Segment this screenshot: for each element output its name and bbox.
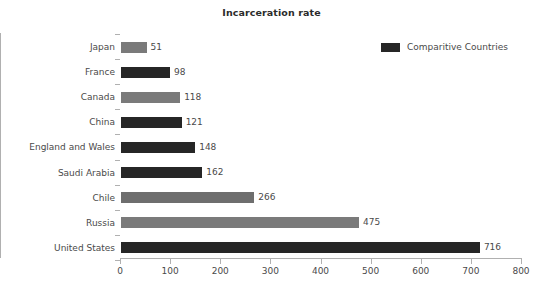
category-label: England and Wales bbox=[29, 142, 115, 152]
x-axis-tick bbox=[220, 259, 221, 264]
bar bbox=[121, 117, 182, 128]
bar bbox=[121, 217, 359, 228]
incarceration-rate-chart: Incarceration rate 519811812114816226647… bbox=[0, 0, 543, 292]
legend-swatch-comparitive-countries bbox=[381, 43, 400, 52]
legend-label: Comparitive Countries bbox=[407, 42, 508, 52]
x-axis-tick bbox=[170, 259, 171, 264]
y-axis-line bbox=[0, 33, 1, 258]
x-axis-tick bbox=[120, 259, 121, 264]
y-axis-tick bbox=[115, 84, 120, 85]
bar bbox=[121, 142, 195, 153]
x-axis-tick bbox=[521, 259, 522, 264]
bar-value-label: 121 bbox=[186, 117, 203, 128]
x-axis-tick bbox=[421, 259, 422, 264]
category-label: Canada bbox=[81, 92, 115, 102]
bar bbox=[121, 42, 147, 53]
category-label: Chile bbox=[92, 193, 115, 203]
category-label: France bbox=[85, 67, 115, 77]
x-axis-tick-label: 300 bbox=[250, 266, 290, 276]
bar bbox=[121, 167, 202, 178]
bar bbox=[121, 242, 480, 253]
category-label: China bbox=[89, 117, 115, 127]
bar bbox=[121, 67, 170, 78]
x-axis-tick bbox=[371, 259, 372, 264]
bar-value-label: 51 bbox=[151, 42, 162, 53]
x-axis-tick-label: 500 bbox=[351, 266, 391, 276]
y-axis-tick bbox=[115, 235, 120, 236]
bar-value-label: 162 bbox=[206, 167, 223, 178]
bar bbox=[121, 92, 180, 103]
x-axis-tick-label: 600 bbox=[401, 266, 441, 276]
category-label: United States bbox=[54, 243, 115, 253]
bar-value-label: 118 bbox=[184, 92, 201, 103]
x-axis-tick bbox=[270, 259, 271, 264]
bar-value-label: 716 bbox=[484, 242, 501, 253]
y-axis-tick bbox=[115, 185, 120, 186]
x-axis-tick-label: 800 bbox=[501, 266, 541, 276]
y-axis-tick bbox=[115, 160, 120, 161]
bar-value-label: 475 bbox=[363, 217, 380, 228]
y-axis-tick bbox=[115, 59, 120, 60]
x-axis-tick-label: 200 bbox=[200, 266, 240, 276]
x-axis-tick bbox=[321, 259, 322, 264]
bar-value-label: 266 bbox=[258, 192, 275, 203]
y-axis-tick bbox=[115, 210, 120, 211]
category-label: Japan bbox=[90, 42, 115, 52]
bar bbox=[121, 192, 254, 203]
category-label: Russia bbox=[86, 218, 115, 228]
category-label: Saudi Arabia bbox=[58, 168, 115, 178]
x-axis-tick-label: 400 bbox=[301, 266, 341, 276]
y-axis-tick bbox=[115, 109, 120, 110]
x-axis-tick bbox=[471, 259, 472, 264]
bar-value-label: 148 bbox=[199, 142, 216, 153]
x-axis-tick-label: 700 bbox=[451, 266, 491, 276]
y-axis-tick bbox=[115, 34, 120, 35]
chart-title: Incarceration rate bbox=[0, 7, 543, 18]
bar-value-label: 98 bbox=[174, 67, 185, 78]
x-axis-tick-label: 0 bbox=[100, 266, 140, 276]
chart-legend: Comparitive Countries bbox=[381, 42, 508, 52]
y-axis-tick bbox=[115, 134, 120, 135]
x-axis-tick-label: 100 bbox=[150, 266, 190, 276]
